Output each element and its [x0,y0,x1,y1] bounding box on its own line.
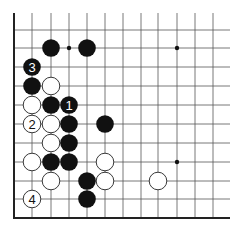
black-stone-icon [23,77,41,95]
black-stone: 1 [60,96,78,114]
black-stone-icon [42,96,60,114]
move-number: 1 [65,98,72,113]
black-stone [78,39,96,57]
black-stone [23,77,41,95]
white-stone-icon [23,96,41,114]
black-stone [60,115,78,133]
white-stone [42,115,60,133]
black-stone-icon [60,134,78,152]
black-stone [42,96,60,114]
black-stone-icon [78,190,96,208]
white-stone [96,172,114,190]
white-stone [42,172,60,190]
white-stone [149,172,167,190]
black-stone-icon [60,153,78,171]
go-board: 3124 [0,0,241,228]
star-point-icon [67,46,71,50]
black-stone-icon [78,39,96,57]
white-stone [23,96,41,114]
black-stone [42,153,60,171]
white-stone: 4 [23,190,41,208]
white-stone-icon [42,134,60,152]
black-stone [42,39,60,57]
white-stone-icon [96,172,114,190]
white-stone [42,77,60,95]
white-stone-icon [42,172,60,190]
move-number: 4 [28,192,35,207]
black-stone-icon [96,115,114,133]
black-stone [60,134,78,152]
move-number: 3 [28,60,35,75]
black-stone [78,172,96,190]
white-stone-icon [42,115,60,133]
white-stone-icon [96,153,114,171]
star-point-icon [175,46,179,50]
black-stone-icon [42,39,60,57]
white-stone-icon [42,77,60,95]
stones: 3124 [23,39,167,208]
black-stone [96,115,114,133]
white-stone-icon [149,172,167,190]
black-stone-icon [42,153,60,171]
star-point-icon [175,160,179,164]
black-stone [60,153,78,171]
white-stone [42,134,60,152]
white-stone-icon [23,153,41,171]
black-stone: 3 [23,58,41,76]
black-stone [78,190,96,208]
white-stone [96,153,114,171]
black-stone-icon [78,172,96,190]
white-stone [23,153,41,171]
white-stone: 2 [23,115,41,133]
black-stone-icon [60,115,78,133]
move-number: 2 [28,117,35,132]
